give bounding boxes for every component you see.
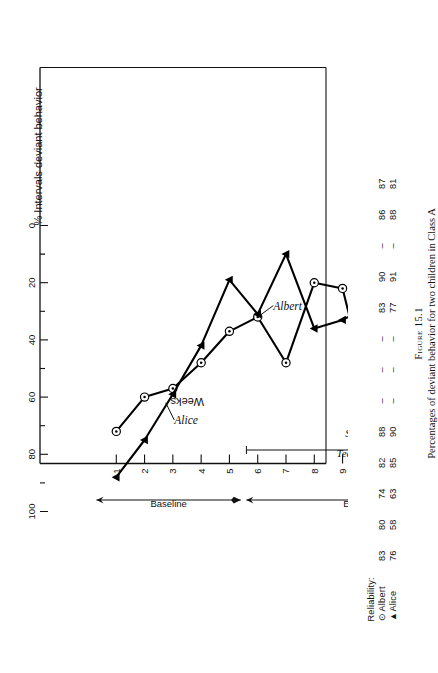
legend-entry-alice: ▲Alice bbox=[388, 571, 399, 621]
reliability-cell: – bbox=[388, 230, 399, 261]
figure-caption-text: Percentages of deviant behavior for two … bbox=[426, 208, 437, 458]
x-tick-label: 7 bbox=[280, 468, 291, 473]
y-tick-label: 40 bbox=[26, 334, 37, 345]
reliability-cell: 90 bbox=[388, 416, 399, 447]
x-tick-label: 5 bbox=[224, 468, 235, 473]
reliability-cell: 74 bbox=[377, 478, 388, 509]
series-label-alice: Alice bbox=[173, 413, 198, 425]
chart-series: AliceAlbert bbox=[112, 249, 348, 480]
reliability-cell: 83 bbox=[377, 292, 388, 323]
reliability-cell: 80 bbox=[377, 509, 388, 540]
x-tick-label: 2 bbox=[139, 468, 150, 473]
reliability-cell: 83 bbox=[377, 540, 388, 571]
legend-label-albert: Albert bbox=[377, 586, 387, 611]
reliability-cell: – bbox=[377, 354, 388, 385]
figure-caption: Figure 15.1 Percentages of deviant behav… bbox=[412, 113, 438, 553]
phase-label-experimental: Experimental bbox=[343, 498, 348, 509]
y-axis-title: % Intervals deviant behavior bbox=[32, 87, 44, 225]
bracket-label-student-teacher: Student Teacher bbox=[345, 427, 348, 439]
figure-number: Figure 15.1 bbox=[413, 307, 424, 360]
reliability-cell: 76 bbox=[388, 540, 399, 571]
legend-entry-albert: ⊙Albert bbox=[377, 571, 388, 621]
y-tick-label: 100 bbox=[26, 503, 37, 519]
reliability-cell: – bbox=[388, 354, 399, 385]
reliability-cell: – bbox=[377, 230, 388, 261]
reliability-cell: 81 bbox=[388, 168, 399, 199]
reliability-cell: 90 bbox=[377, 261, 388, 292]
legend-label-alice: Alice bbox=[388, 590, 398, 611]
reliability-legend: Reliability: ⊙Albert 83 80 74 8 bbox=[366, 168, 399, 621]
line-chart-svg: 0204060801001234567891011121314 Baseline… bbox=[26, 55, 348, 525]
reliability-cell: 86 bbox=[377, 199, 388, 230]
reliability-cell: 87 bbox=[377, 168, 388, 199]
phase-annotations: BaselineExperimentalTeacher: Mrs AStuden… bbox=[96, 425, 348, 509]
reliability-cell: 77 bbox=[388, 292, 399, 323]
reliability-row-albert: ⊙Albert 83 80 74 82 88 – – – 83 90 – 86 … bbox=[377, 168, 388, 621]
reliability-header-row: Reliability: bbox=[366, 168, 377, 621]
reliability-cell: 63 bbox=[388, 478, 399, 509]
y-tick-label: 80 bbox=[26, 449, 37, 460]
x-tick-label: 3 bbox=[167, 468, 178, 473]
reliability-cell: 91 bbox=[388, 261, 399, 292]
reliability-cell: 88 bbox=[388, 199, 399, 230]
chart-plot-area: 0204060801001234567891011121314 Baseline… bbox=[26, 55, 348, 525]
reliability-cell: – bbox=[377, 385, 388, 416]
figure-page: Reliability: ⊙Albert 83 80 74 8 bbox=[0, 0, 438, 673]
x-tick-label: 4 bbox=[196, 468, 207, 473]
reliability-cell: 85 bbox=[388, 447, 399, 478]
series-albert bbox=[112, 278, 348, 435]
reliability-row-alice: ▲Alice 76 58 63 85 90 – – – 77 91 – 88 8… bbox=[388, 168, 399, 621]
x-tick-label: 8 bbox=[309, 468, 320, 473]
x-axis-title: Weeks bbox=[171, 395, 204, 407]
y-tick-label: 20 bbox=[26, 277, 37, 288]
y-tick-label: 60 bbox=[26, 391, 37, 402]
reliability-cell: – bbox=[388, 323, 399, 354]
bracket-label-teacher: Teacher: Mrs A bbox=[337, 447, 348, 459]
reliability-cell: – bbox=[377, 323, 388, 354]
figure-15-1: Reliability: ⊙Albert 83 80 74 8 bbox=[0, 0, 438, 673]
triangle-icon: ▲ bbox=[388, 611, 399, 621]
x-tick-label: 6 bbox=[252, 468, 263, 473]
series-label-albert: Albert bbox=[272, 299, 303, 311]
circle-dot-icon: ⊙ bbox=[377, 611, 388, 621]
phase-label-baseline: Baseline bbox=[150, 498, 186, 509]
reliability-cell: 88 bbox=[377, 416, 388, 447]
x-tick-label: 9 bbox=[337, 468, 348, 473]
reliability-title: Reliability: bbox=[366, 571, 377, 621]
reliability-cell: 82 bbox=[377, 447, 388, 478]
reliability-cell: – bbox=[388, 385, 399, 416]
reliability-cell: 58 bbox=[388, 509, 399, 540]
reliability-table: Reliability: ⊙Albert 83 80 74 8 bbox=[366, 168, 399, 621]
